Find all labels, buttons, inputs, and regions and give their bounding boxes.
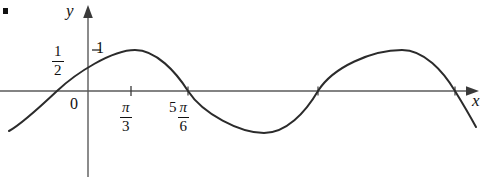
x-tick-label-5pi-over-6: 5 π 6 — [169, 100, 189, 135]
fraction-denominator: 6 — [178, 119, 190, 135]
figure-canvas: y x 1 0 1 2 π 3 5 π 6 — [0, 0, 490, 177]
fraction-denominator: 3 — [120, 119, 132, 135]
y-axis-label: y — [66, 2, 74, 19]
x-tick-label-pi-over-3: π 3 — [120, 100, 132, 135]
fraction-numerator: 1 — [52, 44, 64, 60]
sine-curve-plot — [0, 0, 490, 177]
fraction-stack: π 6 — [178, 100, 190, 135]
fraction-denominator: 2 — [52, 63, 64, 79]
fraction-numerator: π — [178, 100, 190, 116]
x-axis-label: x — [472, 92, 480, 109]
fraction-numerator: π — [120, 100, 132, 116]
tick-marks — [92, 50, 455, 96]
fraction-leading-number: 5 — [169, 100, 177, 116]
y-tick-label-1: 1 — [96, 40, 104, 56]
origin-label: 0 — [70, 96, 78, 112]
y-annotation-one-half: 1 2 — [52, 44, 64, 79]
